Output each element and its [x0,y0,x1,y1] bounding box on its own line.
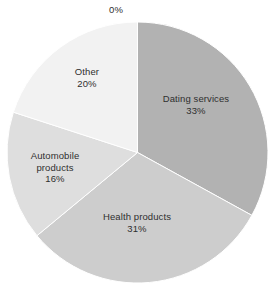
pie-chart: 0% Dating services 33% Health products 3… [0,0,276,294]
pie-chart-canvas [0,0,276,294]
pie-slice-group [7,22,268,283]
